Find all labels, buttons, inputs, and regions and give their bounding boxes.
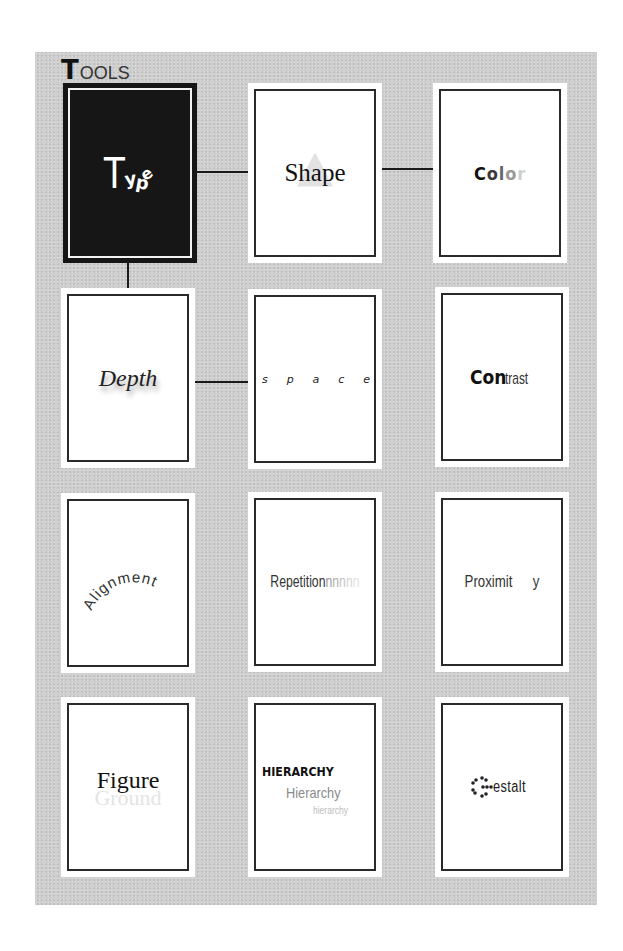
card-shape[interactable]: Shape bbox=[248, 83, 382, 263]
title-initial: T bbox=[61, 58, 79, 82]
card-color[interactable]: Color bbox=[433, 83, 567, 263]
card-depth[interactable]: Depth bbox=[61, 288, 195, 468]
panel-title: T OOLS bbox=[61, 56, 130, 82]
color-label: Color bbox=[474, 163, 526, 184]
connector-shape-color bbox=[380, 168, 435, 170]
color-letter: C bbox=[474, 163, 487, 184]
hierarchy-level-3: hierarchy bbox=[313, 805, 348, 816]
space-letter: p bbox=[287, 373, 294, 386]
contrast-light-part: trast bbox=[505, 369, 528, 389]
card-space[interactable]: s p a c e bbox=[248, 289, 382, 469]
card-repetition[interactable]: Repetitionnnnnn bbox=[248, 492, 382, 672]
card-type[interactable]: T y p e bbox=[63, 83, 197, 263]
title-rest: OOLS bbox=[80, 64, 130, 82]
space-letter: s bbox=[262, 373, 268, 386]
color-letter: o bbox=[505, 163, 517, 184]
proximity-label: Proximity bbox=[465, 572, 540, 592]
type-word: T y p e bbox=[101, 153, 158, 193]
gestalt-label: estalt bbox=[470, 773, 534, 801]
connector-type-depth bbox=[127, 263, 129, 289]
card-figure-ground[interactable]: Figure Ground bbox=[61, 697, 195, 877]
proximity-right: y bbox=[533, 572, 540, 591]
card-gestalt[interactable]: estalt bbox=[435, 697, 569, 877]
repetition-word: Repetition bbox=[270, 572, 325, 592]
space-letter: e bbox=[363, 373, 370, 386]
figure-ground-label: Figure Ground bbox=[94, 768, 161, 806]
gestalt-word: estalt bbox=[493, 778, 526, 796]
contrast-bold-part: Con bbox=[470, 366, 506, 388]
hierarchy-level-1: HIERARCHY bbox=[262, 764, 334, 779]
card-proximity[interactable]: Proximity bbox=[435, 492, 569, 672]
shape-label-group: Shape bbox=[284, 159, 345, 187]
card-contrast[interactable]: Contrast bbox=[435, 287, 569, 467]
repetition-label: Repetitionnnnnn bbox=[270, 572, 359, 592]
color-letter: o bbox=[487, 163, 499, 184]
repetition-echo: n bbox=[353, 572, 360, 592]
proximity-left: Proximit bbox=[465, 572, 513, 591]
space-label: s p a c e bbox=[256, 373, 374, 386]
card-hierarchy[interactable]: HIERARCHY Hierarchy hierarchy bbox=[248, 697, 382, 877]
dotted-g-icon bbox=[470, 773, 494, 801]
connector-depth-space bbox=[193, 381, 250, 383]
color-letter: r bbox=[517, 163, 526, 184]
alignment-label: Alignment bbox=[79, 568, 160, 612]
space-letter: c bbox=[338, 373, 344, 386]
card-alignment[interactable]: Alignment bbox=[61, 493, 195, 673]
connector-type-shape bbox=[197, 171, 250, 173]
ground-word: Ground bbox=[94, 790, 161, 806]
hierarchy-label-group: HIERARCHY Hierarchy hierarchy bbox=[256, 705, 374, 869]
alignment-text: Alignment bbox=[79, 568, 160, 612]
alignment-arc: Alignment bbox=[69, 501, 187, 665]
contrast-label: Contrast bbox=[466, 366, 539, 389]
shape-label: Shape bbox=[284, 159, 345, 187]
depth-label: Depth bbox=[99, 365, 158, 392]
hierarchy-level-2: Hierarchy bbox=[286, 784, 341, 801]
space-letter: a bbox=[313, 373, 320, 386]
